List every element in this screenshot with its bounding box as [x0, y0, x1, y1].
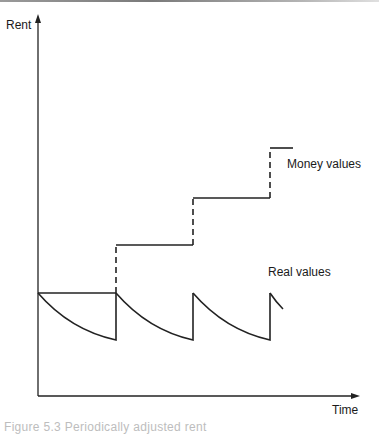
real-values-label: Real values: [268, 265, 331, 279]
x-axis: [38, 393, 360, 399]
money-values-line: [38, 148, 293, 293]
y-axis: [35, 14, 41, 396]
real-values-line: [38, 293, 283, 340]
x-axis-label: Time: [332, 403, 358, 417]
money-values-label: Money values: [287, 157, 361, 171]
figure-caption: Figure 5.3 Periodically adjusted rent: [4, 420, 207, 434]
y-axis-label: Rent: [6, 18, 31, 32]
